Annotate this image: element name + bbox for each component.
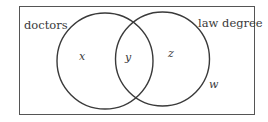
venn-diagram: doctors law degree x y z w <box>0 0 268 122</box>
region-w-label: w <box>209 78 219 91</box>
law-degree-label: law degree <box>198 16 263 30</box>
region-x-label: x <box>79 50 86 63</box>
region-y-label: y <box>124 51 132 64</box>
doctors-circle <box>57 13 153 109</box>
region-z-label: z <box>167 47 174 60</box>
doctors-label: doctors <box>24 18 68 32</box>
